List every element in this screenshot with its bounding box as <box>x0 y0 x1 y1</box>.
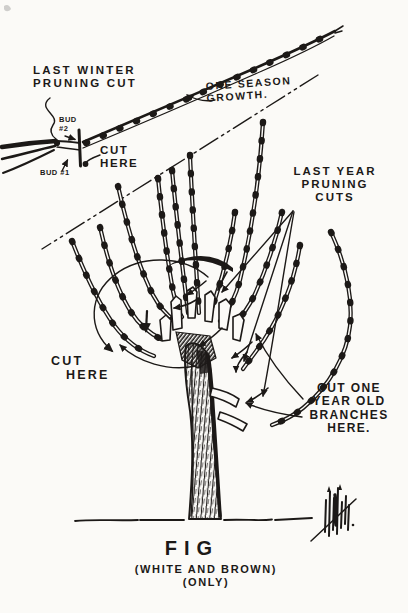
label-line: PRUNING <box>301 178 368 190</box>
cut-here-main-label: CUTHERE <box>51 354 110 382</box>
label-line: CUTS <box>315 191 354 203</box>
label-line: CUT <box>100 144 128 156</box>
fig-pruning-drawing <box>0 0 408 613</box>
label-line: HERE <box>100 157 138 169</box>
bud-1-label: BUD #1 <box>40 169 70 177</box>
last-year-pruning-cuts-label: LAST YEARPRUNINGCUTS <box>281 165 389 204</box>
label-line: BUD #1 <box>40 168 70 177</box>
label-line: LAST WINTER <box>33 64 136 76</box>
label-line: BRANCHES <box>309 408 388 422</box>
figure-title: FIG <box>152 537 232 559</box>
label-line: CUT ONE <box>317 381 381 395</box>
label-line: CUT <box>51 354 83 368</box>
subtitle-text: (WHITE AND BROWN) <box>135 563 277 575</box>
label-line: HERE. <box>327 421 371 435</box>
fig-pruning-page: LAST WINTERPRUNING CUT ONE SEASONGROWTH.… <box>0 0 408 613</box>
cut-here-inset-label: CUTHERE <box>100 144 138 170</box>
cut-mark <box>79 130 81 166</box>
title-text: FIG <box>165 537 219 559</box>
last-winter-pruning-cut-label: LAST WINTERPRUNING CUT <box>33 64 137 90</box>
bud-2-label: BUD#2 <box>59 115 77 134</box>
label-line: LAST YEAR <box>294 165 377 177</box>
inset-branch-detail <box>2 26 343 173</box>
last-winter-leader <box>46 98 56 139</box>
label-line: HERE <box>66 368 110 382</box>
figure-subtitle: (WHITE AND BROWN) <box>126 563 286 575</box>
cut-one-year-pointers <box>246 334 303 417</box>
figure-subtitle-2: (ONLY) <box>126 576 286 588</box>
bud2-arrow <box>65 136 75 140</box>
corner-smudge <box>4 5 11 11</box>
subtitle2-text: (ONLY) <box>183 576 229 588</box>
label-line: BUD <box>59 115 77 124</box>
cut-here-inset-leader <box>86 155 100 163</box>
artist-signature <box>311 484 356 541</box>
cut-one-year-old-branches-label: CUT ONEYEAR OLDBRANCHESHERE. <box>298 382 400 436</box>
label-line: #2 <box>59 124 68 133</box>
label-line: PRUNING CUT <box>33 77 137 89</box>
label-line: YEAR OLD <box>312 394 385 408</box>
